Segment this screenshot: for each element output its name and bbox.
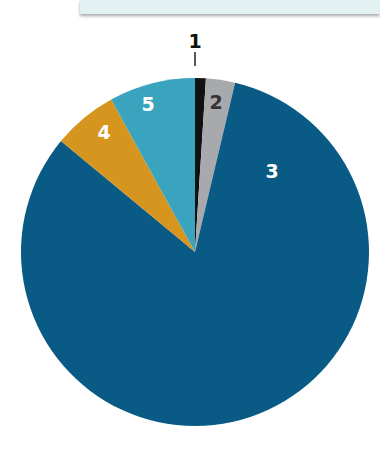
slice-label-3: 3 (265, 160, 278, 182)
slice-label-1: 1 (188, 30, 201, 52)
slice-label-5: 5 (141, 93, 154, 115)
pie-slices (21, 78, 369, 426)
slice-label-2: 2 (209, 91, 222, 113)
pie-chart: 1 2 3 4 5 (0, 0, 380, 466)
slice-label-4: 4 (97, 121, 110, 143)
